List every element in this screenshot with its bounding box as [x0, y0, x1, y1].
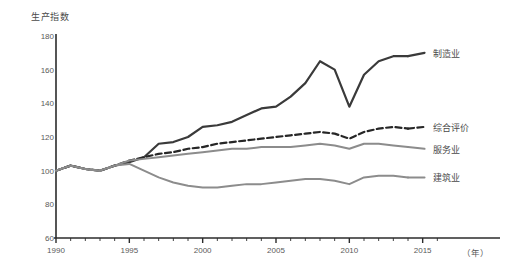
series-line [56, 164, 408, 188]
series-legend-connector [408, 147, 425, 149]
x-axis-tick-label: 1995 [120, 246, 138, 255]
x-axis-tick-label: 2005 [267, 246, 285, 255]
series-legend-label: 综合评价 [433, 121, 469, 134]
series-line [56, 56, 408, 170]
x-axis-tick-label: 2015 [414, 246, 432, 255]
series-legend-connector [408, 53, 425, 56]
x-axis-tick-label: 2010 [340, 246, 358, 255]
series-legend-label: 制造业 [433, 47, 460, 60]
x-axis-tick-label: 2000 [194, 246, 212, 255]
series-legend-connector [408, 127, 425, 129]
production-index-line-chart: 生产指数 6080100120140160180 （年） 19901995200… [0, 0, 512, 269]
series-legend-label: 建筑业 [433, 171, 460, 184]
plot-area [0, 0, 512, 269]
x-axis-tick-label: 1990 [47, 246, 65, 255]
series-legend-label: 服务业 [433, 143, 460, 156]
